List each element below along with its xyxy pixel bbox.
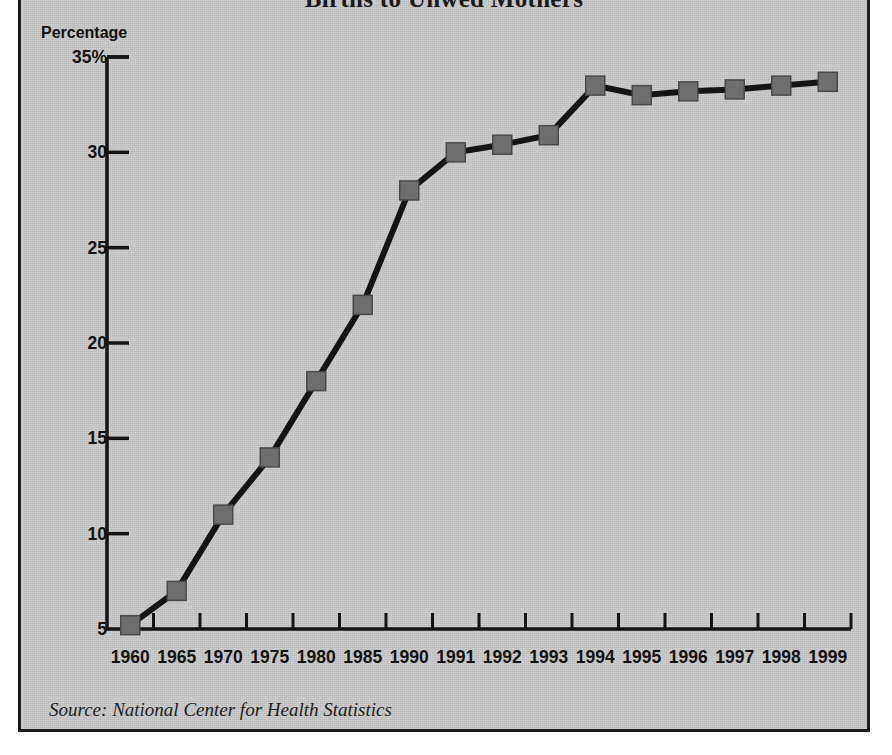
- x-axis-tick-label: 1960: [111, 647, 150, 668]
- y-axis-tick-label: 25: [88, 237, 107, 258]
- data-point-marker[interactable]: [260, 448, 279, 467]
- data-point-marker[interactable]: [772, 76, 791, 95]
- x-axis-tick-label: 1990: [390, 647, 429, 668]
- data-point-marker[interactable]: [353, 295, 372, 314]
- x-axis-tick-labels: 1960196519701975198019851990199119921993…: [39, 647, 855, 673]
- data-point-marker[interactable]: [539, 126, 558, 145]
- x-axis-tick-label: 1994: [576, 647, 615, 668]
- y-axis-tick-labels: 35%30252015105: [21, 51, 107, 641]
- plot-area: [39, 51, 855, 641]
- data-point-marker[interactable]: [446, 143, 465, 162]
- data-point-marker[interactable]: [818, 72, 837, 91]
- x-axis-tick-label: 1965: [157, 647, 196, 668]
- data-point-marker[interactable]: [214, 505, 233, 524]
- x-axis-tick-label: 1997: [715, 647, 754, 668]
- x-axis-tick-label: 1992: [483, 647, 522, 668]
- x-axis-tick-label: 1995: [622, 647, 661, 668]
- chart-page: Births to Unwed Mothers Percentage 35%30…: [0, 0, 892, 755]
- data-point-marker[interactable]: [632, 86, 651, 105]
- x-axis-tick-label: 1980: [297, 647, 336, 668]
- chart-panel: Births to Unwed Mothers Percentage 35%30…: [18, 0, 870, 732]
- y-axis-tick-label: 35%: [72, 47, 107, 68]
- data-point-marker[interactable]: [493, 135, 512, 154]
- x-axis-tick-label: 1985: [343, 647, 382, 668]
- chart-title: Births to Unwed Mothers: [21, 0, 867, 13]
- data-point-marker[interactable]: [679, 82, 698, 101]
- x-axis-tick-label: 1970: [204, 647, 243, 668]
- y-axis-tick-label: 10: [88, 523, 107, 544]
- data-point-marker[interactable]: [167, 581, 186, 600]
- x-axis-tick-label: 1993: [529, 647, 568, 668]
- x-axis-tick-label: 1998: [762, 647, 801, 668]
- source-note: Source: National Center for Health Stati…: [49, 699, 392, 721]
- y-axis-tick-label: 5: [97, 619, 107, 640]
- data-point-marker[interactable]: [121, 616, 140, 635]
- x-axis-tick-label: 1996: [669, 647, 708, 668]
- data-point-marker[interactable]: [400, 181, 419, 200]
- y-axis-tick-label: 15: [88, 428, 107, 449]
- y-axis-tick-label: 20: [88, 333, 107, 354]
- data-point-marker[interactable]: [307, 372, 326, 391]
- data-point-marker[interactable]: [586, 76, 605, 95]
- x-axis-tick-label: 1975: [250, 647, 289, 668]
- axis-lines: [107, 57, 851, 629]
- x-axis-tick-label: 1999: [808, 647, 847, 668]
- y-axis-title: Percentage: [41, 24, 127, 42]
- y-axis-tick-label: 30: [88, 142, 107, 163]
- data-line: [130, 82, 828, 625]
- data-point-marker[interactable]: [725, 80, 744, 99]
- x-axis-tick-label: 1991: [436, 647, 475, 668]
- line-chart-svg: [39, 51, 855, 641]
